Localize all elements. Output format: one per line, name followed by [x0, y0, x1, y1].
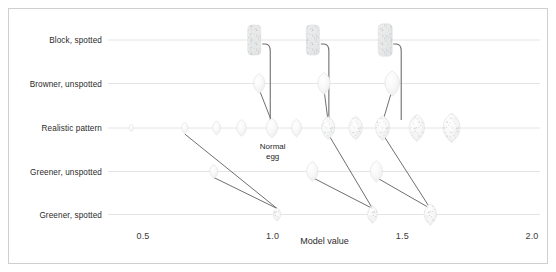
- y-axis-label-block-spotted: Block, spotted: [49, 36, 102, 45]
- y-axis-label-greener-unspotted: Greener, unspotted: [30, 167, 102, 176]
- data-point-egg-plain: [385, 71, 400, 96]
- x-axis-title: Model value: [300, 236, 349, 246]
- data-point-egg: [322, 116, 335, 139]
- data-point-egg-plain: [253, 74, 264, 94]
- y-axis-label-greener-spotted: Greener, spotted: [39, 210, 102, 219]
- y-axis-label-realistic-pattern: Realistic pattern: [42, 124, 102, 133]
- annotation-normal-egg: Normalegg: [260, 142, 286, 161]
- connector-lines: [185, 44, 431, 209]
- y-axis-label-browner-unspotted: Browner, unspotted: [30, 79, 102, 88]
- x-axis-tick-1-5: 1.5: [396, 231, 409, 241]
- data-point-speckled-block: [248, 25, 261, 55]
- data-point-egg-plain: [307, 162, 318, 182]
- data-point-egg: [129, 124, 133, 131]
- connector-line: [214, 178, 277, 209]
- data-point-egg: [291, 119, 301, 137]
- x-axis-tick-1-0: 1.0: [266, 231, 279, 241]
- data-point-egg: [409, 115, 424, 142]
- data-point-egg-spotted: [424, 204, 436, 225]
- data-point-egg: [213, 121, 221, 135]
- data-point-egg: [376, 116, 390, 141]
- x-axis-tick-2-0: 2.0: [525, 231, 538, 241]
- data-point-egg: [181, 122, 188, 133]
- data-point-egg-spotted: [273, 208, 280, 221]
- x-axis-tick-0-5: 0.5: [136, 231, 149, 241]
- data-point-egg-spotted: [368, 206, 378, 223]
- annotation-line-2: egg: [260, 152, 286, 162]
- figure-container: Block, spottedBrowner, unspottedRealisti…: [0, 0, 556, 272]
- data-point-egg: [349, 116, 363, 140]
- data-point-egg: [443, 113, 460, 142]
- data-point-speckled-block: [378, 24, 392, 56]
- data-point-egg: [266, 118, 277, 138]
- data-point-egg-plain: [210, 165, 218, 179]
- data-point-speckled-block: [306, 25, 319, 55]
- data-point-egg: [237, 120, 247, 137]
- annotation-line-1: Normal: [260, 142, 286, 152]
- data-markers: [129, 24, 460, 225]
- data-point-egg-plain: [370, 161, 382, 182]
- connector-line: [376, 178, 430, 209]
